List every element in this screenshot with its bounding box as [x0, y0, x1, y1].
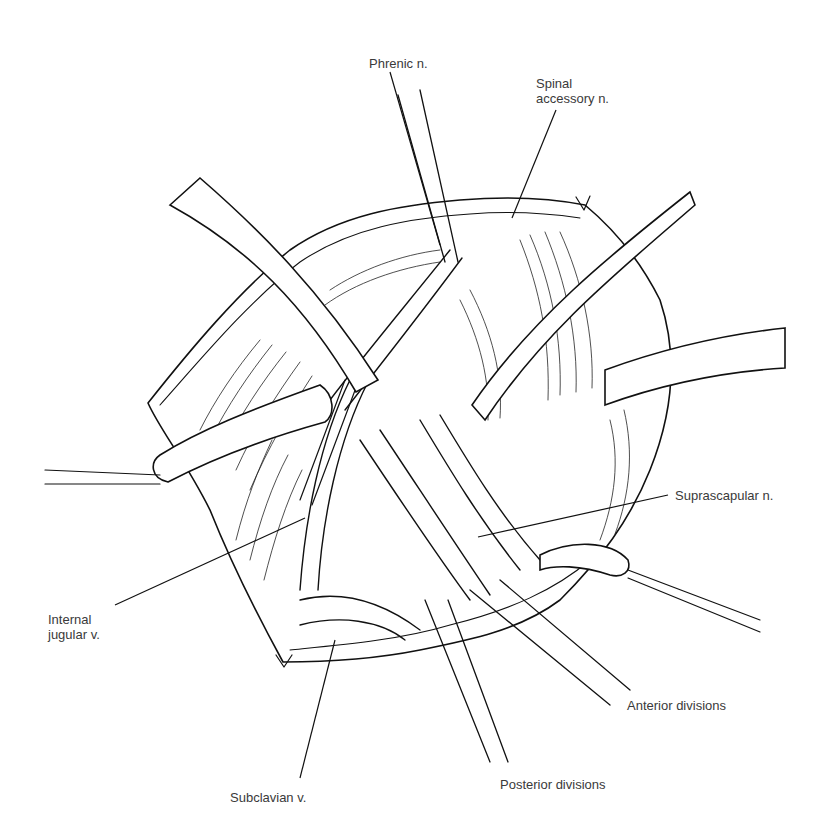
brachial-plexus — [300, 250, 540, 600]
retractor-right[interactable] — [605, 328, 785, 405]
label-internal-jugular-vein: Internal jugular v. — [48, 612, 100, 642]
vessel-loop-left[interactable] — [45, 385, 332, 484]
phrenic-loop[interactable] — [398, 90, 458, 262]
anterior-divisions-loops[interactable] — [470, 580, 630, 705]
label-anterior-divisions: Anterior divisions — [627, 698, 726, 713]
label-subclavian-vein: Subclavian v. — [230, 790, 306, 805]
label-suprascapular-nerve: Suprascapular n. — [675, 488, 773, 503]
subclavian-vein — [300, 596, 420, 640]
retractor-upper-left[interactable] — [170, 178, 378, 392]
label-posterior-divisions: Posterior divisions — [500, 777, 606, 792]
leader-lines — [115, 72, 668, 778]
posterior-divisions-loops[interactable] — [425, 600, 508, 762]
label-spinal-accessory-nerve: Spinal accessory n. — [536, 76, 609, 106]
label-phrenic-nerve: Phrenic n. — [369, 56, 428, 71]
vessel-loop-right[interactable] — [540, 544, 760, 632]
